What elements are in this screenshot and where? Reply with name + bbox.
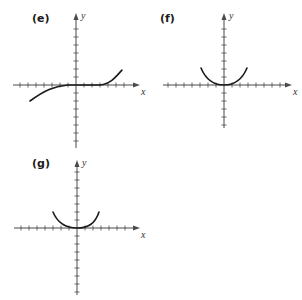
x-axis-arrow-icon	[285, 83, 292, 88]
y-axis-arrow-icon	[222, 13, 227, 20]
x-axis-label-e: x	[140, 86, 146, 97]
x-axis-arrow-icon	[133, 83, 140, 88]
y-axis-arrow-icon	[75, 160, 80, 167]
y-axis-arrow-icon	[74, 13, 79, 20]
y-axis-label-f: y	[228, 10, 234, 21]
y-axis-label-e: y	[80, 10, 86, 21]
x-axis-label-g: x	[140, 229, 146, 240]
x-axis-arrow-icon	[133, 226, 140, 231]
y-axis-label-g: y	[81, 157, 87, 168]
panel-label-f: (f)	[160, 12, 175, 25]
figure: xyxyxy (e) (f) (g)	[0, 0, 302, 300]
x-axis-label-f: x	[292, 86, 298, 97]
figure-canvas: xyxyxy	[0, 0, 302, 300]
panel-label-e: (e)	[32, 12, 50, 25]
panel-label-g: (g)	[32, 157, 50, 170]
